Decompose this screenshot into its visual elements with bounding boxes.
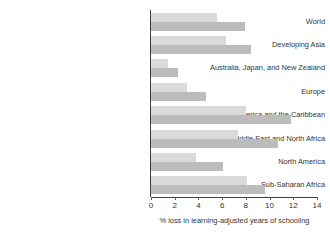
bars-layer — [151, 10, 317, 197]
x-tick — [222, 197, 223, 200]
bar-chart: WorldDeveloping AsiaAustralia, Japan, an… — [0, 0, 330, 236]
x-tick — [198, 197, 199, 200]
bar — [151, 68, 178, 77]
bar — [151, 130, 238, 139]
bar — [151, 92, 206, 101]
x-tick-label: 10 — [258, 201, 282, 210]
x-tick — [270, 197, 271, 200]
bar-group — [151, 59, 317, 77]
bar-group — [151, 130, 317, 148]
x-tick-label: 8 — [234, 201, 258, 210]
x-axis-title: % loss in learning-adjusted years of sch… — [151, 216, 318, 225]
x-tick-label: 2 — [163, 201, 187, 210]
x-tick-label: 6 — [210, 201, 234, 210]
bar — [151, 22, 245, 31]
bar-group — [151, 36, 317, 54]
bar-group — [151, 106, 317, 124]
bar — [151, 106, 246, 115]
bar — [151, 162, 223, 171]
bar — [151, 13, 217, 22]
bar-group — [151, 176, 317, 194]
x-tick-label: 12 — [281, 201, 305, 210]
x-tick-label: 4 — [186, 201, 210, 210]
bar-group — [151, 153, 317, 171]
bar-group — [151, 13, 317, 31]
bar — [151, 36, 226, 45]
bar — [151, 185, 265, 194]
bar — [151, 176, 247, 185]
bar — [151, 115, 291, 124]
x-tick — [317, 197, 318, 200]
bar — [151, 153, 196, 162]
bar — [151, 59, 168, 68]
bar — [151, 83, 187, 92]
bar — [151, 45, 251, 54]
x-tick-label: 0 — [139, 201, 163, 210]
x-tick — [246, 197, 247, 200]
bar — [151, 139, 278, 148]
bar-group — [151, 83, 317, 101]
x-tick — [293, 197, 294, 200]
x-tick-label: 14 — [305, 201, 329, 210]
x-tick — [151, 197, 152, 200]
x-tick — [175, 197, 176, 200]
